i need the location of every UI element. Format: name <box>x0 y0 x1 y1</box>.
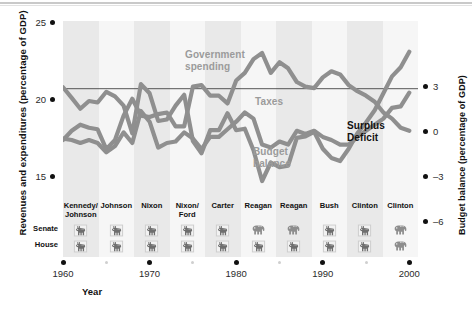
deficit-label: Deficit <box>347 132 378 143</box>
spending-label-line2: spending <box>185 61 230 72</box>
x-tick-minor <box>278 261 281 264</box>
admin-column: Carter <box>205 201 241 257</box>
admin-column: Bush <box>312 201 348 257</box>
democrat-donkey-icon <box>322 239 337 252</box>
democrat-donkey-icon <box>251 239 266 252</box>
y-tick-left-20: 20 <box>30 94 55 105</box>
plot-area: Government spending Taxes Budget balance… <box>63 21 418 201</box>
democrat-donkey-icon <box>357 239 372 252</box>
x-tick-label-1960: 1960 <box>43 268 83 279</box>
admin-name: Nixon/Ford <box>170 202 206 219</box>
democrat-donkey-icon <box>357 223 372 236</box>
admin-name-line2: Johnson <box>65 210 97 219</box>
democrat-donkey-icon <box>180 223 195 236</box>
admin-column: Clinton <box>347 201 383 257</box>
top-divider <box>0 2 472 4</box>
surplus-label: Surplus <box>347 120 385 131</box>
figure-root: Revenues and expenditures (percentage of… <box>0 0 472 316</box>
spending-label-line1: Government <box>185 49 245 60</box>
x-tick-major <box>407 260 412 265</box>
admin-name: Carter <box>205 202 241 211</box>
admin-name: Clinton <box>347 202 383 211</box>
admin-name-line1: Johnson <box>100 201 132 210</box>
admin-name: Bush <box>312 202 348 211</box>
tick-dot <box>423 84 428 89</box>
tick-dot <box>50 97 55 102</box>
tick-dot <box>50 174 55 179</box>
y-axis-right-title: Budget balance (percentage of GDP) <box>457 45 467 265</box>
democrat-donkey-icon <box>215 239 230 252</box>
x-tick-minor <box>365 261 368 264</box>
republican-elephant-icon <box>286 223 301 236</box>
y-tick-right-neg3-label: –3 <box>433 171 444 182</box>
y-axis-left-title: Revenues and expenditures (percentage of… <box>17 16 28 236</box>
democrat-donkey-icon <box>215 223 230 236</box>
admin-column: Johnson <box>99 201 135 257</box>
admin-name: Clinton <box>383 202 419 211</box>
y-tick-left-15: 15 <box>30 171 55 182</box>
y-tick-left-25: 25 <box>30 17 55 28</box>
admin-column: Reagan <box>241 201 277 257</box>
y-tick-right-3-label: 3 <box>433 81 438 92</box>
democrat-donkey-icon <box>144 223 159 236</box>
x-tick-label-1980: 1980 <box>216 268 256 279</box>
y-tick-left-25-label: 25 <box>30 17 46 28</box>
x-tick-minor <box>105 261 108 264</box>
democrat-donkey-icon <box>73 239 88 252</box>
y-tick-right-0: 0 <box>423 126 438 137</box>
series-label-government-spending: Government spending <box>185 49 275 72</box>
tick-dot <box>423 174 428 179</box>
republican-elephant-icon <box>393 223 408 236</box>
admin-column: Nixon/Ford <box>170 201 206 257</box>
tick-dot <box>423 129 428 134</box>
top-divider-secondary <box>0 5 472 6</box>
admin-name-line1: Clinton <box>387 201 413 210</box>
series-lines <box>63 21 418 201</box>
y-tick-right-neg6: –6 <box>423 216 444 227</box>
source-note <box>18 309 20 316</box>
balance-label-line1: Budget <box>253 146 288 157</box>
y-tick-left-15-label: 15 <box>30 171 46 182</box>
republican-elephant-icon <box>393 239 408 252</box>
democrat-donkey-icon <box>109 223 124 236</box>
republican-elephant-icon <box>251 223 266 236</box>
admin-column: Reagan <box>276 201 312 257</box>
admin-name-line1: Nixon <box>141 201 162 210</box>
admin-name-line1: Clinton <box>352 201 378 210</box>
y-tick-right-0-label: 0 <box>433 126 438 137</box>
y-tick-left-20-label: 20 <box>30 94 46 105</box>
admin-name-line1: Bush <box>320 201 339 210</box>
admin-name: Nixon <box>134 202 170 211</box>
admin-column: Clinton <box>383 201 419 257</box>
row-label-house: House <box>16 240 58 249</box>
y-tick-right-neg3: –3 <box>423 171 444 182</box>
democrat-donkey-icon <box>322 223 337 236</box>
x-tick-major <box>320 260 325 265</box>
tick-dot <box>50 20 55 25</box>
x-tick-label-1970: 1970 <box>130 268 170 279</box>
x-axis-title: Year <box>82 286 102 297</box>
balance-label-line2: balance <box>253 158 291 169</box>
series-label-taxes: Taxes <box>255 96 283 108</box>
x-tick-major <box>147 260 152 265</box>
admin-name-line2: Ford <box>179 210 196 219</box>
admin-name: Kennedy/Johnson <box>63 202 99 219</box>
admin-name-line1: Reagan <box>245 201 272 210</box>
series-label-budget-balance: Budget balance <box>253 146 313 169</box>
democrat-donkey-icon <box>73 223 88 236</box>
admin-name-line1: Carter <box>212 201 234 210</box>
admin-column: Nixon <box>134 201 170 257</box>
x-tick-label-2000: 2000 <box>389 268 429 279</box>
x-tick-major <box>234 260 239 265</box>
row-label-senate: Senate <box>16 224 58 233</box>
x-tick-label-1990: 1990 <box>303 268 343 279</box>
admin-name: Reagan <box>241 202 277 211</box>
admin-name: Reagan <box>276 202 312 211</box>
democrat-donkey-icon <box>286 239 301 252</box>
x-axis: 19601970198019902000 <box>63 258 418 288</box>
democrat-donkey-icon <box>144 239 159 252</box>
admin-column: Kennedy/Johnson <box>63 201 99 257</box>
admin-name-line1: Reagan <box>280 201 307 210</box>
y-tick-right-3: 3 <box>423 81 438 92</box>
democrat-donkey-icon <box>109 239 124 252</box>
